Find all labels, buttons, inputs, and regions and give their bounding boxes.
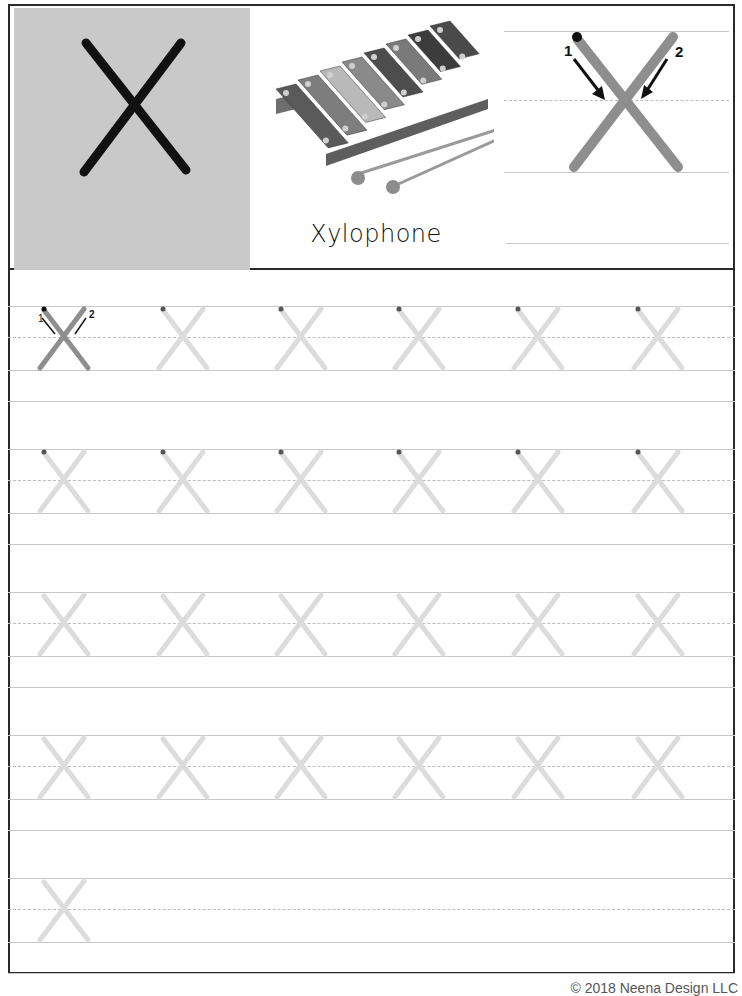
start-dot-icon bbox=[572, 32, 582, 42]
tracing-letters[interactable] bbox=[8, 878, 735, 978]
svg-text:1: 1 bbox=[38, 313, 44, 324]
copyright-text: © 2018 Neena Design LLC bbox=[570, 980, 738, 996]
practice-row-4 bbox=[8, 735, 735, 835]
practice-row-5 bbox=[8, 878, 735, 978]
trace-letter-x bbox=[40, 450, 88, 512]
start-dot-icon bbox=[636, 450, 641, 455]
trace-letter-x bbox=[634, 450, 682, 512]
start-dot-icon bbox=[42, 450, 47, 455]
tracing-letters[interactable] bbox=[8, 449, 735, 549]
big-letter-x bbox=[14, 8, 250, 270]
tracing-letters[interactable] bbox=[8, 735, 735, 835]
start-dot-icon bbox=[42, 307, 47, 312]
trace-letter-x bbox=[159, 738, 207, 797]
trace-letter-x bbox=[277, 450, 325, 512]
picture-word: Xylophone bbox=[258, 220, 494, 248]
practice-row-2 bbox=[8, 449, 735, 549]
trace-letter-x bbox=[514, 595, 562, 654]
trace-letter-x bbox=[40, 595, 88, 654]
trace-letter-x bbox=[277, 738, 325, 797]
tracing-letters[interactable]: 12 bbox=[8, 306, 735, 406]
trace-letter-x bbox=[159, 307, 207, 369]
start-dot-icon bbox=[516, 450, 521, 455]
trace-letter-x bbox=[395, 595, 443, 654]
start-dot-icon bbox=[161, 450, 166, 455]
trace-letter-x bbox=[395, 307, 443, 369]
trace-letter-x bbox=[514, 738, 562, 797]
trace-letter-x bbox=[40, 738, 88, 797]
stroke-order-diagram: 1 2 bbox=[494, 4, 735, 266]
trace-letter-x bbox=[159, 595, 207, 654]
trace-letter-x bbox=[40, 881, 88, 940]
trace-letter-x bbox=[514, 307, 562, 369]
trace-letter-x bbox=[395, 450, 443, 512]
start-dot-icon bbox=[397, 450, 402, 455]
xylophone-icon bbox=[258, 4, 494, 204]
tracing-letters[interactable] bbox=[8, 592, 735, 692]
practice-row-3 bbox=[8, 592, 735, 692]
trace-letter-x bbox=[634, 595, 682, 654]
big-letter-panel bbox=[14, 8, 250, 270]
trace-letter-x bbox=[277, 307, 325, 369]
trace-letter-x bbox=[634, 307, 682, 369]
stroke-1-label: 1 bbox=[564, 42, 572, 59]
practice-area: 12 bbox=[8, 270, 735, 974]
svg-text:2: 2 bbox=[89, 309, 95, 320]
picture-panel: Xylophone bbox=[258, 4, 494, 266]
start-dot-icon bbox=[279, 307, 284, 312]
start-dot-icon bbox=[636, 307, 641, 312]
trace-letter-x bbox=[514, 450, 562, 512]
trace-letter-x bbox=[159, 450, 207, 512]
start-dot-icon bbox=[161, 307, 166, 312]
trace-letter-x bbox=[277, 595, 325, 654]
practice-row-1: 12 bbox=[8, 306, 735, 406]
trace-letter-x bbox=[395, 738, 443, 797]
trace-letter-x bbox=[634, 738, 682, 797]
start-dot-icon bbox=[397, 307, 402, 312]
start-dot-icon bbox=[279, 450, 284, 455]
worksheet-header: Xylophone 1 2 bbox=[8, 4, 735, 270]
guided-letter-x: 12 bbox=[38, 307, 95, 369]
start-dot-icon bbox=[516, 307, 521, 312]
stroke-2-label: 2 bbox=[675, 43, 683, 60]
stroke-demo-panel: 1 2 bbox=[494, 4, 735, 266]
